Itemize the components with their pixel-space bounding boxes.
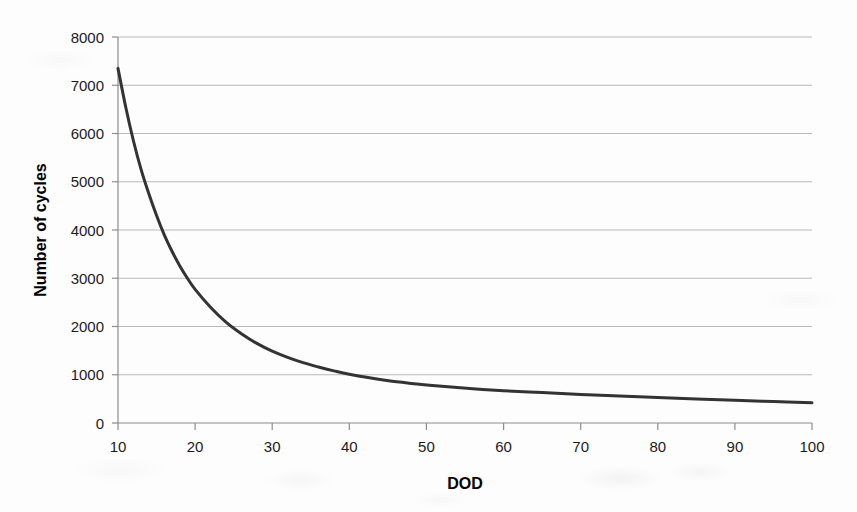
series-line-cycle-life bbox=[118, 68, 812, 402]
y-axis-title: Number of cycles bbox=[32, 163, 49, 296]
y-tick-label: 5000 bbox=[71, 173, 104, 190]
y-tick-label: 7000 bbox=[71, 77, 104, 94]
x-tick-label: 100 bbox=[799, 438, 824, 455]
x-tick-label: 70 bbox=[572, 438, 589, 455]
x-tick-label: 90 bbox=[727, 438, 744, 455]
y-tick-label: 0 bbox=[96, 415, 104, 432]
y-axis-tick-labels: 8000 7000 6000 5000 4000 3000 2000 1000 … bbox=[71, 29, 104, 432]
x-tick-label: 40 bbox=[341, 438, 358, 455]
y-tick-label: 1000 bbox=[71, 366, 104, 383]
y-tick-label: 6000 bbox=[71, 125, 104, 142]
cycle-life-chart: 8000 7000 6000 5000 4000 3000 2000 1000 … bbox=[0, 0, 857, 512]
x-tick-label: 60 bbox=[495, 438, 512, 455]
y-axis-ticks bbox=[112, 37, 118, 423]
x-tick-label: 80 bbox=[649, 438, 666, 455]
x-tick-label: 30 bbox=[264, 438, 281, 455]
chart-page: 8000 7000 6000 5000 4000 3000 2000 1000 … bbox=[0, 0, 857, 512]
y-tick-label: 2000 bbox=[71, 318, 104, 335]
y-tick-label: 4000 bbox=[71, 222, 104, 239]
y-tick-label: 8000 bbox=[71, 29, 104, 46]
plot-area bbox=[112, 37, 812, 430]
y-tick-label: 3000 bbox=[71, 270, 104, 287]
x-tick-label: 50 bbox=[418, 438, 435, 455]
gridlines-horizontal bbox=[118, 37, 812, 375]
x-tick-label: 10 bbox=[110, 438, 127, 455]
x-axis-ticks bbox=[118, 423, 812, 430]
x-axis-tick-labels: 10 20 30 40 50 60 70 80 90 100 bbox=[110, 438, 825, 455]
x-tick-label: 20 bbox=[187, 438, 204, 455]
x-axis-title: DOD bbox=[447, 475, 483, 492]
